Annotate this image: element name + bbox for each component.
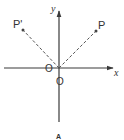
caption: A [56, 133, 61, 140]
label-p-prime: P' [13, 18, 22, 30]
label-y-axis: y [50, 3, 56, 14]
coordinate-diagram: P P' x y O O A [0, 0, 124, 140]
label-origin: O [45, 63, 53, 74]
label-p: P [98, 19, 105, 31]
label-origin-below: O [56, 76, 64, 87]
label-x-axis: x [113, 67, 119, 78]
segment-op-prime [23, 30, 59, 68]
segment-op [59, 31, 96, 68]
